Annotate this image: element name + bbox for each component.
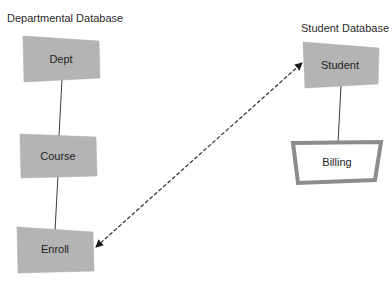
node-dept-label: Dept (49, 53, 72, 65)
node-enroll[interactable]: Enroll (17, 227, 94, 273)
node-billing[interactable]: Billing (293, 142, 381, 183)
edge-dept-course (59, 79, 62, 136)
edge-course-enroll (55, 175, 58, 231)
node-dept[interactable]: Dept (23, 36, 100, 82)
edge-student-billing (338, 85, 341, 144)
node-billing-label: Billing (322, 156, 351, 168)
edge-enroll-student-dashed-arrow (96, 63, 302, 247)
node-course-label: Course (40, 150, 75, 162)
node-student-label: Student (321, 59, 359, 71)
node-enroll-label: Enroll (41, 243, 69, 255)
node-student[interactable]: Student (303, 42, 379, 88)
node-course[interactable]: Course (20, 134, 97, 178)
